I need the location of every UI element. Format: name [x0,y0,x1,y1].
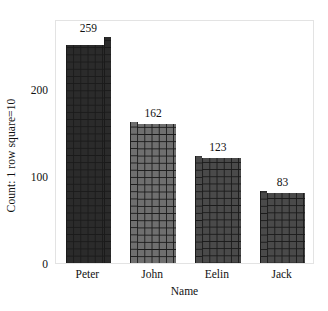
y-tick-label: 200 [22,84,48,96]
y-axis-tick-labels: 200 100 0 [22,0,48,311]
y-axis-title: Count: 1 row square=10 [0,0,22,311]
bar-value-label: 83 [260,176,305,188]
plot-area: 259 162 123 [55,20,314,264]
bar-partial-square [104,37,111,263]
x-axis-tick-labels: Peter John Eelin Jack [55,268,314,286]
bar-value-label: 162 [130,107,175,119]
y-tick-label: 100 [22,171,48,183]
bars-container: 259 162 123 [56,21,313,263]
y-tick-label: 0 [22,258,48,270]
bar-john[interactable] [130,122,175,263]
bar-partial-square [260,191,267,263]
bar-value-label: 123 [195,141,240,153]
x-tick-label-peter: Peter [55,268,120,280]
bar-peter[interactable] [66,37,111,263]
bar-value-label: 259 [66,22,111,34]
bar-jack[interactable] [260,191,305,263]
bar-chart-figure: Count: 1 row square=10 200 100 0 259 162 [0,0,328,311]
x-axis-title: Name [55,285,314,297]
x-tick-label-eelin: Eelin [185,268,250,280]
bar-partial-square [195,156,202,263]
x-tick-label-jack: Jack [249,268,314,280]
bar-partial-square [130,122,137,263]
x-tick-label-john: John [120,268,185,280]
bar-eelin[interactable] [195,156,240,263]
